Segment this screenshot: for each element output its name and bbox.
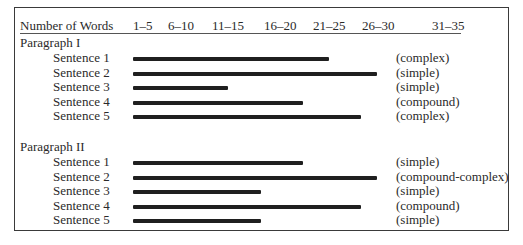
row-annotation: (compound) <box>396 199 460 213</box>
row-label: Sentence 4 <box>53 199 110 213</box>
tick-6-10: 6–10 <box>168 19 194 33</box>
tick-1-5: 1–5 <box>133 19 153 33</box>
row-label: Sentence 1 <box>53 155 110 169</box>
tick-26-30: 26–30 <box>362 19 395 33</box>
paragraph-title: Paragraph I <box>20 36 80 50</box>
row-annotation: (simple) <box>396 155 439 169</box>
bar <box>133 190 261 194</box>
row-annotation: (simple) <box>396 213 439 227</box>
bar <box>133 72 377 76</box>
row-annotation: (compound-complex) <box>396 170 509 184</box>
bar <box>133 86 228 90</box>
bar <box>133 161 303 165</box>
row-label: Sentence 5 <box>53 109 110 123</box>
row-label: Sentence 4 <box>53 95 110 109</box>
row-annotation: (complex) <box>396 109 449 123</box>
row-annotation: (simple) <box>396 66 439 80</box>
row-label: Sentence 3 <box>53 184 110 198</box>
tick-31-35: 31–35 <box>432 19 465 33</box>
row-annotation: (simple) <box>396 80 439 94</box>
bar <box>133 101 303 105</box>
bar <box>133 57 329 61</box>
tick-21-25: 21–25 <box>313 19 346 33</box>
bar <box>133 176 377 180</box>
row-label: Sentence 2 <box>53 66 110 80</box>
bar <box>133 205 361 209</box>
row-label: Sentence 5 <box>53 213 110 227</box>
paragraph-title: Paragraph II <box>20 140 85 154</box>
tick-16-20: 16–20 <box>264 19 297 33</box>
row-label: Sentence 3 <box>53 80 110 94</box>
x-axis-label: Number of Words <box>20 19 113 33</box>
row-annotation: (compound) <box>396 95 460 109</box>
row-label: Sentence 1 <box>53 51 110 65</box>
row-annotation: (complex) <box>396 51 449 65</box>
row-annotation: (simple) <box>396 184 439 198</box>
tick-11-15: 11–15 <box>212 19 244 33</box>
header-underline <box>20 33 461 34</box>
bar <box>133 115 361 119</box>
row-label: Sentence 2 <box>53 170 110 184</box>
bar <box>133 219 261 223</box>
